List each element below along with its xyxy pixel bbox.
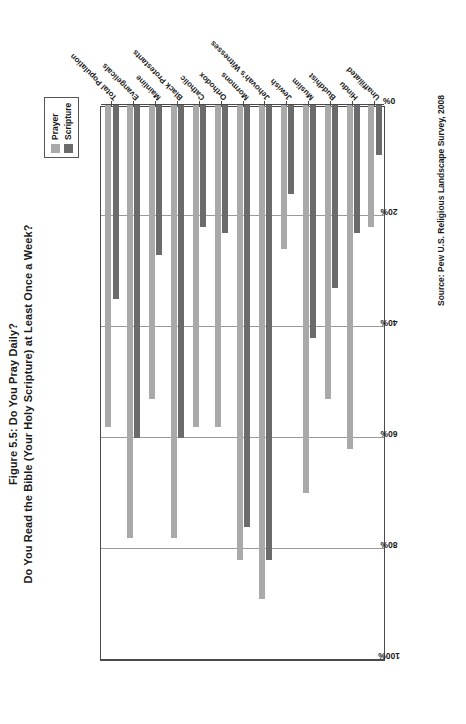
category-label-black-protestants: Black Protestants (130, 48, 184, 102)
value-tick-label-80: 80% (380, 540, 397, 550)
gridline-100 (101, 659, 384, 660)
category-label-mormons: Mormons (218, 70, 250, 102)
category-label-catholic: Catholic (178, 73, 207, 102)
category-label-unaffiliated: Unaffiliated (345, 65, 382, 102)
value-tick-label-40: 40% (380, 318, 397, 328)
bar-prayer-buddhist (325, 105, 331, 399)
category-label-orthodox: Orthodox (196, 70, 228, 102)
bar-scripture-mainline (156, 105, 162, 255)
category-label-buddhist: Buddhist (307, 71, 338, 102)
category-label-mainline: Mainline (133, 73, 162, 102)
legend-label-prayer: Prayer (50, 114, 60, 140)
legend-item-scripture[interactable]: Scripture (62, 103, 74, 153)
legend-item-prayer[interactable]: Prayer (49, 103, 61, 153)
bar-scripture-hindu (354, 105, 360, 233)
bar-prayer-jewish (281, 105, 287, 249)
bar-scripture-catholic (200, 105, 206, 227)
bar-scripture-evangelicals (134, 105, 140, 438)
category-label-jehovah-s-witnesses: Jehovah's Witnesses (209, 39, 272, 102)
value-tick-label-100: 100% (378, 651, 400, 661)
category-label-hindu: Hindu (337, 80, 359, 102)
bar-prayer-unaffiliated (368, 105, 374, 227)
category-label-jewish: Jewish (269, 77, 294, 102)
legend-swatch-prayer (51, 144, 60, 153)
bar-scripture-muslim (310, 105, 316, 338)
bar-scripture-total-population (113, 105, 119, 299)
bar-prayer-black-protestants (171, 105, 177, 538)
bar-scripture-orthodox (222, 105, 228, 233)
figure-rotator: Figure 5.5: Do You Pray Daily? Do You Re… (0, 0, 466, 724)
category-label-evangelicals: Evangelicals (100, 62, 141, 103)
bar-prayer-total-population (105, 105, 111, 427)
bar-prayer-mormons (237, 105, 243, 560)
chart-title-line-2: Do You Read the Bible (Your Holy Scriptu… (21, 84, 36, 724)
category-label-muslim: Muslim (290, 76, 316, 102)
value-tick-label-20: 20% (380, 207, 397, 217)
chart-legend: Prayer Scripture (44, 97, 79, 158)
category-label-total-population: Total Population (68, 52, 118, 102)
value-tick-label-0: 0% (383, 96, 395, 106)
bar-scripture-buddhist (332, 105, 338, 288)
chart-title-block: Figure 5.5: Do You Pray Daily? Do You Re… (6, 84, 36, 724)
chart-title-line-1: Figure 5.5: Do You Pray Daily? (6, 84, 21, 724)
bar-prayer-hindu (347, 105, 353, 449)
legend-label-scripture: Scripture (63, 103, 73, 140)
bar-scripture-jehovah-s-witnesses (266, 105, 272, 560)
legend-swatch-scripture (64, 144, 73, 153)
bar-scripture-jewish (288, 105, 294, 194)
value-axis: 0%20%40%60%80%100% (387, 106, 427, 661)
bar-prayer-evangelicals (127, 105, 133, 538)
bar-prayer-catholic (193, 105, 199, 427)
bar-scripture-black-protestants (178, 105, 184, 438)
bar-prayer-muslim (303, 105, 309, 494)
bar-scripture-mormons (244, 105, 250, 527)
plot-area (100, 106, 385, 661)
value-tick-label-60: 60% (380, 429, 397, 439)
bar-prayer-orthodox (215, 105, 221, 427)
source-note: Source: Pew U.S. Religious Landscape Sur… (436, 95, 446, 306)
bar-scripture-unaffiliated (376, 105, 382, 155)
bar-prayer-mainline (149, 105, 155, 399)
bar-prayer-jehovah-s-witnesses (259, 105, 265, 599)
